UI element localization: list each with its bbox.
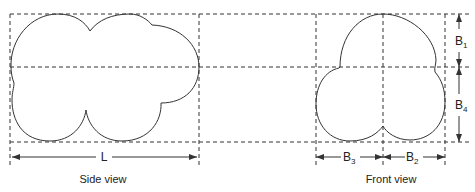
projection-diagram: L Side view B1 B4 B3 B2 Front view <box>0 0 475 192</box>
dimension-L-label: L <box>101 150 108 164</box>
dimension-B2: B2 <box>383 150 445 166</box>
side-view-caption: Side view <box>79 173 126 185</box>
dimension-B1-label: B1 <box>455 34 468 50</box>
dimension-B3: B3 <box>316 150 383 166</box>
dimension-B2-label: B2 <box>406 150 419 166</box>
front-view-caption: Front view <box>366 173 417 185</box>
projection-lines <box>10 14 470 165</box>
front-view-outline <box>316 14 445 141</box>
dimension-B1: B1 <box>455 14 468 67</box>
dimension-B3-label: B3 <box>343 150 356 166</box>
dimension-L: L <box>12 150 197 164</box>
side-view-outline <box>11 14 199 141</box>
dimension-B4-label: B4 <box>455 98 468 114</box>
dimension-B4: B4 <box>455 67 468 142</box>
